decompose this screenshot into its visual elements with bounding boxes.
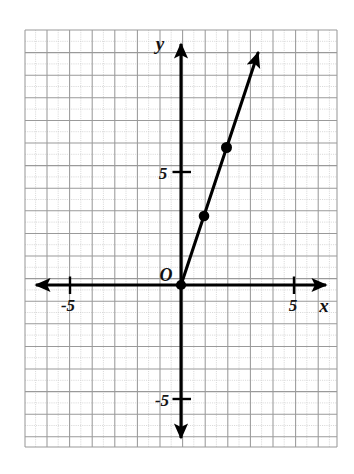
y-tick-label-neg5: -5 — [155, 391, 170, 410]
plotted-points — [176, 142, 232, 290]
coordinate-plane-figure: y x O -5 5 5 -5 — [0, 0, 354, 474]
point-1-3 — [199, 211, 210, 222]
origin-label: O — [160, 265, 173, 285]
graph-canvas: y x O -5 5 5 -5 — [0, 0, 354, 474]
x-tick-label-pos5: 5 — [289, 296, 298, 315]
point-origin-0-0 — [176, 280, 186, 290]
y-axis-label: y — [154, 33, 165, 54]
point-2-6 — [221, 142, 232, 153]
line-graph-y-equals-3x — [181, 53, 258, 285]
x-tick-label-neg5: -5 — [61, 296, 76, 315]
x-axis-label: x — [318, 295, 329, 316]
y-tick-label-pos5: 5 — [159, 164, 168, 183]
